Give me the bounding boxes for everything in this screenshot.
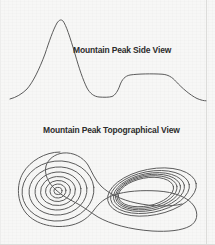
side-view-panel: Mountain Peak Side View: [0, 0, 215, 118]
side-view-title: Mountain Peak Side View: [73, 45, 171, 56]
elevation-profile-curve: [10, 20, 206, 101]
topographical-contour-svg: [0, 118, 215, 245]
contour-left-ring-5: [44, 179, 71, 202]
right-summit-contour-cluster: [103, 161, 200, 223]
mountain-peak-figure: Mountain Peak Side View Mountain Peak To…: [0, 0, 215, 245]
contour-left-ring-1: [19, 157, 97, 224]
topographical-view-panel: Mountain Peak Topographical View: [0, 118, 215, 245]
contour-left-ring-4: [39, 175, 77, 207]
contour-left-ring-7-summit: [54, 187, 63, 195]
side-view-profile-svg: [0, 0, 215, 118]
left-summit-contour-cluster: [19, 157, 97, 224]
